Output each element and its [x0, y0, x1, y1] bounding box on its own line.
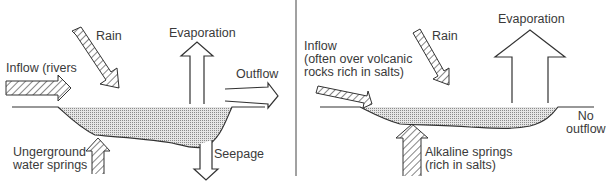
left-seepage-label: Seepage	[214, 148, 264, 161]
outflow-arrow	[225, 83, 278, 108]
right-rain-label: Rain	[432, 30, 458, 43]
right-springs-label: Alkaline springs (rich in salts)	[425, 146, 513, 172]
evaporation-arrow	[181, 42, 213, 104]
left-evaporation-label: Evaporation	[169, 27, 236, 40]
springs-arrow	[396, 124, 428, 176]
lake-water	[58, 107, 232, 148]
right-no-outflow-label: No outflow	[566, 110, 606, 136]
left-outflow-label: Outflow	[236, 68, 278, 81]
right-inflow-label: Inflow (often over volcanic rocks rich i…	[304, 40, 412, 79]
left-springs-label: Ungerground water springs	[13, 146, 87, 172]
evaporation-arrow	[495, 30, 565, 103]
inflow-arrow	[316, 86, 372, 108]
lake-water	[360, 107, 558, 128]
springs-arrow	[86, 138, 110, 174]
right-evaporation-label: Evaporation	[498, 13, 565, 26]
left-inflow-label: Inflow (rivers	[6, 62, 77, 75]
left-rain-label: Rain	[96, 30, 122, 43]
inflow-arrow	[6, 75, 71, 101]
